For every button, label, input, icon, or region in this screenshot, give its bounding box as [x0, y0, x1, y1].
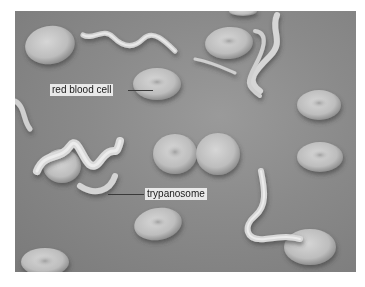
micrograph-content — [15, 11, 356, 272]
trypanosome-leader-line — [108, 194, 144, 195]
micrograph-image: red blood cell trypanosome — [15, 11, 356, 272]
red-blood-cell-label: red blood cell — [50, 84, 113, 96]
trypanosome-label: trypanosome — [145, 188, 207, 200]
red-blood-cell-leader-line — [128, 90, 153, 91]
